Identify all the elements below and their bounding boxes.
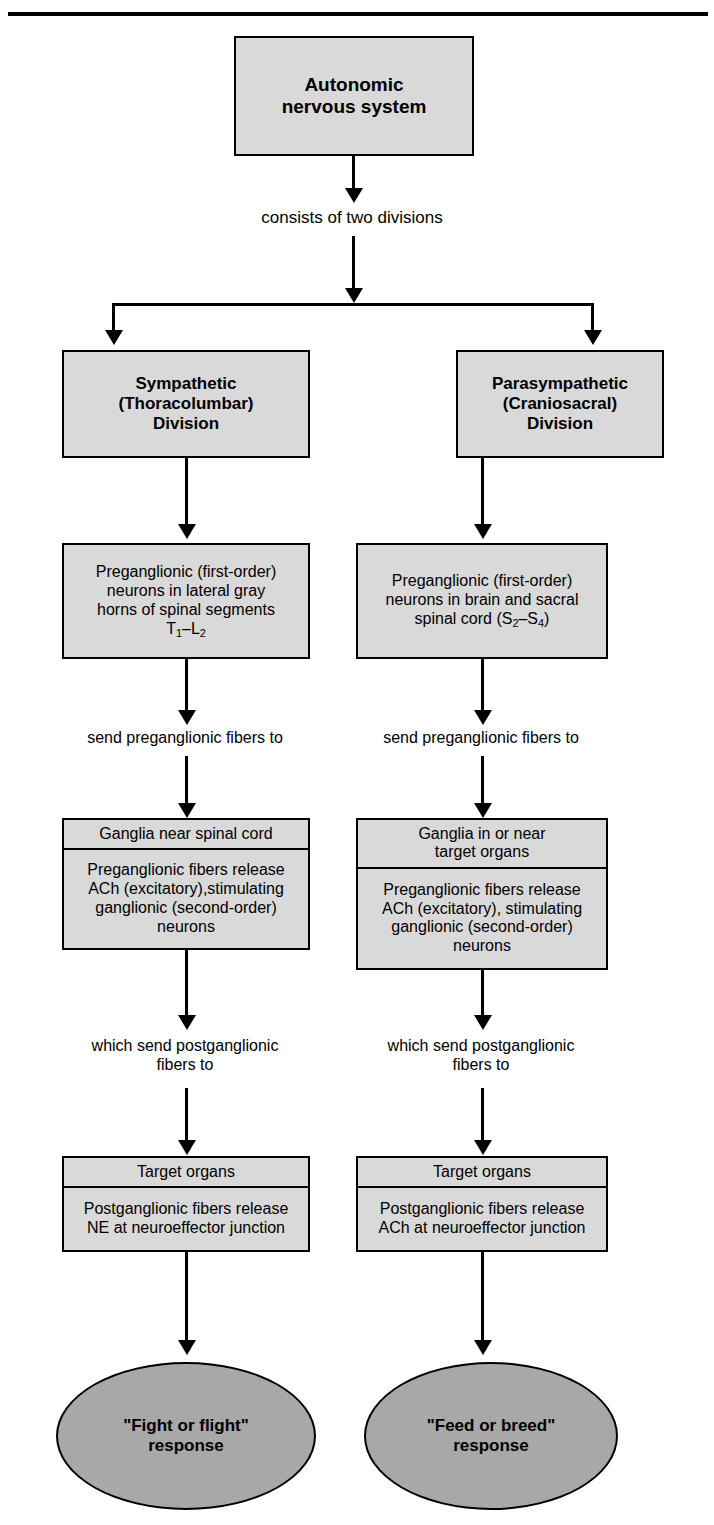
sym-pre-line-3: horns of spinal segments xyxy=(70,601,302,620)
connector-para-caption-to-ganglia xyxy=(481,756,484,808)
node-parasympathetic-ganglia-body: Preganglionic fibers release ACh (excita… xyxy=(358,869,606,968)
sym-outcome-line-2: response xyxy=(123,1436,249,1456)
node-autonomic-nervous-system-label: Autonomic nervous system xyxy=(236,74,472,119)
caption-para-postgang-line-1: which send postganglionic xyxy=(334,1036,628,1055)
connector-para-caption2-to-target-arrowhead xyxy=(474,1140,492,1155)
node-parasympathetic-ganglia[interactable]: Ganglia in or near target organs Pregang… xyxy=(356,818,608,970)
caption-para-which-send-postganglionic: which send postganglionic fibers to xyxy=(334,1036,628,1074)
caption-sym-send-preganglionic: send preganglionic fibers to xyxy=(35,728,335,747)
top-divider-rule xyxy=(8,12,708,16)
connector-para-caption-to-ganglia-arrowhead xyxy=(474,803,492,818)
node-feed-or-breed-response[interactable]: "Feed or breed" response xyxy=(364,1362,618,1510)
node-sympathetic-ganglia[interactable]: Ganglia near spinal cord Preganglionic f… xyxy=(62,818,310,950)
caption-sym-postgang-line-2: fibers to xyxy=(38,1055,332,1074)
sym-pre-seg-t: T xyxy=(166,620,176,637)
node-sympathetic-preganglionic-label: Preganglionic (first-order) neurons in l… xyxy=(64,563,308,639)
para-ganglia-strip-line-1: Ganglia in or near xyxy=(364,825,600,843)
node-autonomic-nervous-system[interactable]: Autonomic nervous system xyxy=(234,36,474,156)
connector-para-div-to-pre xyxy=(481,458,484,530)
para-pre-seg-close: ) xyxy=(544,610,549,627)
para-ganglia-body-line-1: Preganglionic fibers release xyxy=(383,881,580,900)
connector-sym-ganglia-to-caption2 xyxy=(185,950,188,1020)
connector-split-right-arrowhead xyxy=(584,330,602,345)
node-parasympathetic-ganglia-strip: Ganglia in or near target organs xyxy=(358,820,606,869)
connector-para-div-to-pre-arrowhead xyxy=(474,524,492,539)
node-sympathetic-ganglia-body: Preganglionic fibers release ACh (excita… xyxy=(64,850,308,948)
para-outcome-line-2: response xyxy=(427,1436,556,1456)
sym-pre-line-2: neurons in lateral gray xyxy=(70,582,302,601)
caption-consists-of-two-divisions: consists of two divisions xyxy=(172,208,532,228)
connector-sym-pre-to-caption-arrowhead xyxy=(178,710,196,725)
node-feed-or-breed-label: "Feed or breed" response xyxy=(427,1416,556,1457)
node-sympathetic-division-label: Sympathetic (Thoracolumbar) Division xyxy=(64,374,308,434)
caption-para-send-text: send preganglionic fibers to xyxy=(383,729,579,746)
connector-sym-target-to-outcome-arrowhead xyxy=(178,1340,196,1355)
connector-para-target-to-outcome xyxy=(481,1252,484,1348)
connector-sym-pre-to-caption xyxy=(185,659,188,715)
para-outcome-line-1: "Feed or breed" xyxy=(427,1416,556,1436)
node-sympathetic-target-strip: Target organs xyxy=(64,1158,308,1188)
sym-pre-sub-2: 2 xyxy=(200,626,206,638)
sym-outcome-line-1: "Fight or flight" xyxy=(123,1416,249,1436)
caption-sym-send-text: send preganglionic fibers to xyxy=(87,729,283,746)
para-pre-line-1: Preganglionic (first-order) xyxy=(364,572,600,591)
sym-target-body-line-1: Postganglionic fibers release xyxy=(84,1200,289,1219)
sympathetic-division-line-3: Division xyxy=(70,414,302,434)
node-sympathetic-target-organs[interactable]: Target organs Postganglionic fibers rele… xyxy=(62,1156,310,1252)
node-parasympathetic-preganglionic-label: Preganglionic (first-order) neurons in b… xyxy=(358,572,606,629)
connector-para-pre-to-caption xyxy=(481,659,484,715)
connector-split-left-arrowhead xyxy=(105,330,123,345)
sym-pre-line-4: T1–L2 xyxy=(70,620,302,640)
connector-sym-target-to-outcome xyxy=(185,1252,188,1348)
connector-para-target-to-outcome-arrowhead xyxy=(474,1340,492,1355)
node-parasympathetic-division-label: Parasympathetic (Craniosacral) Division xyxy=(458,374,662,434)
para-pre-seg-s: spinal cord (S xyxy=(415,610,513,627)
caption-para-postgang-line-2: fibers to xyxy=(334,1055,628,1074)
node-sympathetic-ganglia-strip: Ganglia near spinal cord xyxy=(64,820,308,850)
connector-sym-div-to-pre-arrowhead xyxy=(178,524,196,539)
node-parasympathetic-preganglionic[interactable]: Preganglionic (first-order) neurons in b… xyxy=(356,543,608,659)
connector-root-arrowhead-bottom xyxy=(345,288,363,303)
connector-para-ganglia-to-caption2-arrowhead xyxy=(474,1015,492,1030)
connector-para-ganglia-to-caption2 xyxy=(481,970,484,1020)
sympathetic-division-line-2: (Thoracolumbar) xyxy=(70,394,302,414)
para-ganglia-body-line-3: ganglionic (second-order) xyxy=(391,918,572,937)
node-parasympathetic-target-organs[interactable]: Target organs Postganglionic fibers rele… xyxy=(356,1156,608,1252)
para-ganglia-body-line-4: neurons xyxy=(453,937,511,956)
sym-target-body-line-2: NE at neuroeffector junction xyxy=(87,1219,285,1238)
caption-sym-which-send-postganglionic: which send postganglionic fibers to xyxy=(38,1036,332,1074)
node-sympathetic-target-body: Postganglionic fibers release NE at neur… xyxy=(64,1188,308,1250)
connector-sym-caption2-to-target xyxy=(185,1088,188,1146)
sym-ganglia-body-line-4: neurons xyxy=(157,918,215,937)
sym-ganglia-body-line-2: ACh (excitatory),stimulating xyxy=(88,880,284,899)
parasympathetic-division-line-1: Parasympathetic xyxy=(464,374,656,394)
sympathetic-division-line-1: Sympathetic xyxy=(70,374,302,394)
connector-sym-caption2-to-target-arrowhead xyxy=(178,1140,196,1155)
node-parasympathetic-division[interactable]: Parasympathetic (Craniosacral) Division xyxy=(456,350,664,458)
sym-ganglia-body-line-3: ganglionic (second-order) xyxy=(95,899,276,918)
connector-root-stem-bottom xyxy=(352,236,355,296)
node-parasympathetic-target-body: Postganglionic fibers release ACh at neu… xyxy=(358,1188,606,1250)
para-ganglia-body-line-2: ACh (excitatory), stimulating xyxy=(382,900,582,919)
connector-sym-caption-to-ganglia xyxy=(185,756,188,808)
para-pre-seg-s2: –S xyxy=(518,610,538,627)
node-fight-or-flight-response[interactable]: "Fight or flight" response xyxy=(56,1362,316,1510)
para-pre-line-2: neurons in brain and sacral xyxy=(364,591,600,610)
sym-target-strip-label: Target organs xyxy=(70,1163,302,1181)
connector-para-caption2-to-target xyxy=(481,1088,484,1146)
root-line-2: nervous system xyxy=(242,96,466,118)
parasympathetic-division-line-3: Division xyxy=(464,414,656,434)
sym-ganglia-body-line-1: Preganglionic fibers release xyxy=(87,861,284,880)
root-line-1: Autonomic xyxy=(242,74,466,96)
node-sympathetic-preganglionic[interactable]: Preganglionic (first-order) neurons in l… xyxy=(62,543,310,659)
connector-root-arrowhead-top xyxy=(345,188,363,203)
connector-sym-caption-to-ganglia-arrowhead xyxy=(178,803,196,818)
parasympathetic-division-line-2: (Craniosacral) xyxy=(464,394,656,414)
node-parasympathetic-target-strip: Target organs xyxy=(358,1158,606,1188)
node-sympathetic-division[interactable]: Sympathetic (Thoracolumbar) Division xyxy=(62,350,310,458)
para-pre-line-3: spinal cord (S2–S4) xyxy=(364,610,600,630)
connector-sym-ganglia-to-caption2-arrowhead xyxy=(178,1015,196,1030)
caption-para-send-preganglionic: send preganglionic fibers to xyxy=(331,728,631,747)
connector-split-horizontal xyxy=(112,303,594,306)
para-ganglia-strip-line-2: target organs xyxy=(364,843,600,861)
